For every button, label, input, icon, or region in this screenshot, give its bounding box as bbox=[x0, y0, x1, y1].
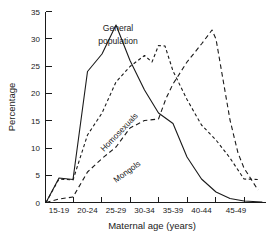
x-axis-title: Maternal age (years) bbox=[108, 220, 196, 231]
x-tick-label: 40-44 bbox=[191, 206, 212, 215]
cut-off-footer-text bbox=[0, 240, 269, 249]
series-line-mongols bbox=[46, 30, 258, 203]
x-tick-label: 45-49 bbox=[226, 206, 247, 215]
y-tick-label: 10 bbox=[31, 144, 40, 153]
x-tick-label: 15-19 bbox=[49, 206, 70, 215]
chart-plot-area: 35 30 25 20 15 10 5 0 Percentage 15-19 2… bbox=[0, 0, 269, 249]
chart-figure: 35 30 25 20 15 10 5 0 Percentage 15-19 2… bbox=[0, 0, 269, 249]
y-tick-label: 30 bbox=[31, 35, 40, 44]
y-axis-title: Percentage bbox=[6, 83, 17, 132]
x-axis-ticks bbox=[73, 197, 244, 203]
x-axis-tick-labels: 15-19 20-24 25-29 30-34 35-39 40-44 45-4… bbox=[49, 206, 247, 215]
y-tick-label: 35 bbox=[31, 8, 40, 17]
curve-label-general-population-line1: General bbox=[103, 23, 134, 33]
series-line-homosexuals bbox=[46, 46, 258, 203]
y-axis-tick-labels: 35 30 25 20 15 10 5 0 bbox=[31, 8, 40, 208]
y-tick-label: 0 bbox=[36, 199, 41, 208]
curve-label-mongols: Mongols bbox=[112, 159, 142, 184]
curve-label-general-population-line2: population bbox=[98, 36, 138, 46]
y-tick-label: 5 bbox=[36, 171, 41, 180]
x-tick-label: 25-29 bbox=[106, 206, 127, 215]
x-tick-label: 30-34 bbox=[134, 206, 155, 215]
x-tick-label: 20-24 bbox=[77, 206, 98, 215]
x-tick-label: 35-39 bbox=[163, 206, 184, 215]
y-tick-label: 25 bbox=[31, 62, 40, 71]
series-line-general-population bbox=[46, 25, 262, 203]
y-axis-ticks bbox=[46, 12, 52, 203]
y-tick-label: 20 bbox=[31, 89, 40, 98]
curve-label-homosexuals: Homosexuals bbox=[99, 111, 140, 153]
y-tick-label: 15 bbox=[31, 117, 40, 126]
